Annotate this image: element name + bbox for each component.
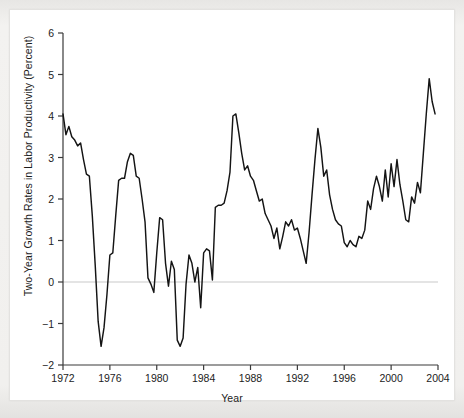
x-tick-label: 2000 [379,372,403,384]
y-tick-label: 6 [48,27,54,39]
x-tick-label: 1980 [145,372,169,384]
figure-container: −2−10123456 1972197619801984198819921996… [0,0,464,418]
y-tick-label: 5 [48,69,54,81]
x-tick-label: 1992 [286,372,310,384]
plot-area: −2−10123456 1972197619801984198819921996… [0,0,464,418]
y-tick-label: −1 [42,318,54,330]
y-axis-label: Two-Year Growth Rates in Labor Productiv… [22,0,34,336]
y-tick-label: −2 [42,359,54,371]
chart-svg: −2−10123456 1972197619801984198819921996… [0,0,464,418]
y-tick-label: 0 [48,276,54,288]
x-tick-label: 2004 [426,372,450,384]
y-axis-ticks: −2−10123456 [42,27,63,371]
y-tick-label: 4 [48,110,54,122]
x-tick-label: 1996 [333,372,357,384]
x-tick-label: 1984 [192,372,216,384]
x-tick-label: 1976 [98,372,122,384]
x-tick-label: 1972 [51,372,75,384]
y-tick-label: 3 [48,152,54,164]
productivity-growth-line [63,79,435,347]
y-tick-label: 1 [48,235,54,247]
x-axis-label: Year [0,392,464,404]
x-axis-ticks: 197219761980198419881992199620002004 [51,365,450,384]
x-tick-label: 1988 [239,372,263,384]
y-tick-label: 2 [48,193,54,205]
